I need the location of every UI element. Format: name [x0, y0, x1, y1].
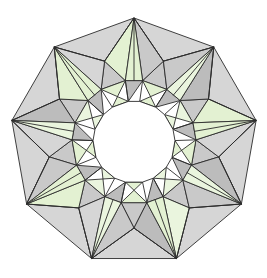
polyhedron-figure	[0, 0, 267, 278]
hole-rim-outline	[93, 101, 175, 182]
figure-container	[0, 0, 267, 278]
